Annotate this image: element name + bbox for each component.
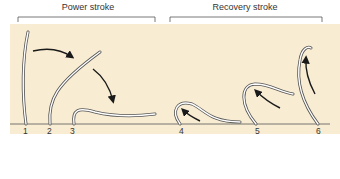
position-label-4: 4	[179, 126, 184, 136]
cilium-beat-diagram: 1 2 3 4 5 6	[0, 0, 340, 179]
position-label-1: 1	[23, 126, 28, 136]
position-label-6: 6	[316, 126, 321, 136]
recovery-stroke-bracket	[170, 17, 322, 22]
position-label-5: 5	[255, 126, 260, 136]
power-stroke-bracket	[18, 17, 155, 22]
position-label-2: 2	[47, 126, 52, 136]
position-label-3: 3	[70, 126, 75, 136]
